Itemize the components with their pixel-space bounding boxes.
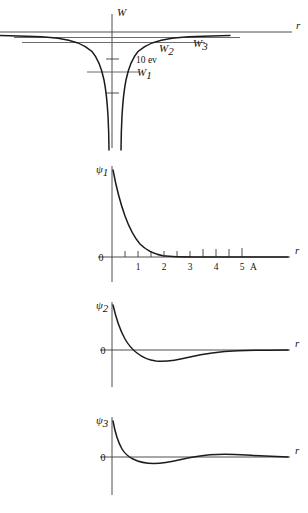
psi2-panel: ψ2 0 r [0, 290, 308, 395]
psi3-panel: ψ3 0 r [0, 395, 308, 513]
potential-curve-right [121, 36, 230, 151]
psi2-y-axis-label: ψ2 [96, 299, 109, 314]
psi3-r-axis-label: r [295, 444, 300, 456]
psi2-r-axis-label: r [295, 337, 300, 349]
psi2-zero-label: 0 [101, 345, 106, 356]
psi1-zero-label: 0 [99, 252, 104, 263]
psi3-svg: ψ3 0 r [0, 395, 308, 513]
psi1-ticklabel-3: 3 [188, 262, 193, 272]
potential-r-axis-label: r [296, 19, 301, 31]
psi2-curve [113, 305, 288, 361]
potential-energy-panel: W r W2 W3 W1 10 ev [0, 0, 308, 160]
psi1-panel: ψ1 0 r 1 2 3 4 5 A [0, 160, 308, 290]
potential-w-axis-label: W [117, 6, 127, 18]
psi1-ticklabel-1: 1 [136, 262, 141, 272]
energy-scale-annotation: 10 ev [136, 55, 157, 65]
psi1-ticklabel-5: 5 [240, 262, 245, 272]
label-w2: W2 [159, 42, 174, 57]
label-w1: W1 [137, 66, 152, 81]
psi1-y-axis-label: ψ1 [96, 163, 108, 178]
psi1-svg: ψ1 0 r 1 2 3 4 5 A [0, 160, 308, 290]
psi1-curve [113, 170, 288, 257]
psi1-unit-label: A [250, 262, 257, 272]
psi2-svg: ψ2 0 r [0, 290, 308, 395]
potential-curve-left [0, 36, 109, 151]
psi3-zero-label: 0 [101, 452, 106, 463]
psi1-ticklabel-4: 4 [214, 262, 219, 272]
psi3-y-axis-label: ψ3 [96, 414, 109, 429]
potential-svg: W r W2 W3 W1 10 ev [0, 0, 308, 160]
physics-figure: W r W2 W3 W1 10 ev [0, 0, 308, 513]
psi1-ticklabel-2: 2 [162, 262, 167, 272]
psi1-r-axis-label: r [295, 244, 300, 256]
label-w3: W3 [193, 37, 208, 52]
